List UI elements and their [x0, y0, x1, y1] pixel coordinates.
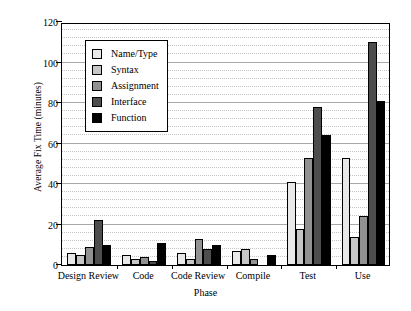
legend-swatch-icon: [92, 65, 102, 75]
bar[interactable]: [359, 216, 368, 265]
y-axis-tick-label: 20: [48, 219, 58, 230]
bar[interactable]: [377, 101, 386, 265]
bar[interactable]: [177, 253, 186, 265]
bar[interactable]: [203, 249, 212, 265]
legend-label: Assignment: [111, 81, 159, 91]
y-axis-tick-label: 100: [43, 57, 58, 68]
x-axis-separator: [172, 265, 173, 269]
legend-label: Function: [111, 113, 147, 123]
legend-swatch-icon: [92, 81, 102, 91]
bar[interactable]: [131, 259, 140, 265]
y-axis-tick-label: 40: [48, 179, 58, 190]
x-axis-tick-label: Code Review: [171, 270, 225, 281]
bar[interactable]: [122, 255, 131, 265]
legend-swatch-icon: [92, 113, 102, 123]
legend-swatch-icon: [92, 49, 102, 59]
bar[interactable]: [322, 135, 331, 265]
bar[interactable]: [195, 239, 204, 265]
legend-item[interactable]: Assignment: [92, 78, 159, 94]
bar[interactable]: [287, 182, 296, 265]
legend-label: Syntax: [111, 65, 139, 75]
legend-swatch-icon: [92, 97, 102, 107]
x-axis-title: Phase: [0, 287, 411, 298]
bar-group: [172, 24, 227, 265]
legend-item[interactable]: Interface: [92, 94, 159, 110]
bar-group: [336, 24, 389, 265]
bar-group: [227, 24, 282, 265]
bar[interactable]: [313, 107, 322, 265]
bar-group: [281, 24, 336, 265]
x-axis-separator: [117, 265, 118, 269]
legend-label: Interface: [111, 97, 147, 107]
y-axis-tick-label: 80: [48, 98, 58, 109]
y-axis-tick-label: 0: [53, 260, 58, 271]
x-axis-tick-label: Test: [299, 270, 316, 281]
bar[interactable]: [149, 261, 158, 265]
bar[interactable]: [296, 229, 305, 265]
x-axis-tick-label: Use: [355, 270, 371, 281]
bar[interactable]: [250, 259, 259, 265]
legend-item[interactable]: Function: [92, 110, 159, 126]
bar[interactable]: [350, 237, 359, 265]
legend-item[interactable]: Syntax: [92, 62, 159, 78]
bar[interactable]: [157, 243, 166, 265]
legend-item[interactable]: Name/Type: [92, 46, 159, 62]
bar[interactable]: [140, 257, 149, 265]
x-axis-tick-label: Design Review: [58, 270, 119, 281]
bar[interactable]: [267, 255, 276, 265]
chart-legend: Name/TypeSyntaxAssignmentInterfaceFuncti…: [85, 40, 168, 132]
x-axis-separator: [336, 265, 337, 269]
bar[interactable]: [368, 42, 377, 265]
bar[interactable]: [212, 245, 221, 265]
legend-label: Name/Type: [111, 49, 158, 59]
bar[interactable]: [241, 249, 250, 265]
bar[interactable]: [103, 245, 112, 265]
bar[interactable]: [85, 247, 94, 265]
bar[interactable]: [76, 255, 85, 265]
bar[interactable]: [67, 253, 76, 265]
bar[interactable]: [186, 259, 195, 265]
x-axis-tick-label: Compile: [236, 270, 270, 281]
y-axis-tick-label: 120: [43, 17, 58, 28]
x-axis-tick-label: Code: [133, 270, 154, 281]
bar[interactable]: [342, 158, 351, 265]
bar[interactable]: [232, 251, 241, 265]
x-axis-separator: [227, 265, 228, 269]
bar[interactable]: [94, 220, 103, 265]
bar[interactable]: [304, 158, 313, 265]
y-axis-title: Average Fix Time (minutes): [33, 37, 43, 237]
x-axis-separator: [281, 265, 282, 269]
y-axis-tick-label: 60: [48, 138, 58, 149]
chart-figure: Average Fix Time (minutes) 0204060801001…: [0, 0, 411, 311]
